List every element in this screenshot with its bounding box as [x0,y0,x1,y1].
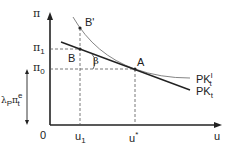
bracket-down-arrow-icon [25,120,29,125]
pi0-tick-label: π0 [33,62,45,76]
bracket-label: λPπet [1,92,20,108]
point-B [78,47,81,50]
x-axis-arrow-icon [214,122,222,128]
beta-angle-label: β [93,56,99,66]
point-B-prime-label: B' [85,17,94,28]
point-B-prime [78,26,81,29]
pi1-tick-label: π1 [33,42,45,56]
point-A-label: A [137,57,144,68]
y-axis-label: π [33,8,40,19]
point-B-label: B [68,53,75,64]
bracket-up-arrow-icon [25,69,29,74]
short-run-line-label: PKt [196,86,213,100]
phillips-curve-diagram: π u 0 π1 π0 u1 u* A B B' β λPπet PKlt PK… [0,0,231,150]
y-axis-arrow-icon [47,12,53,20]
ustar-tick-label: u* [129,131,138,144]
x-axis-label: u [214,131,220,142]
origin-label: 0 [40,130,46,141]
u1-tick-label: u1 [75,131,86,145]
